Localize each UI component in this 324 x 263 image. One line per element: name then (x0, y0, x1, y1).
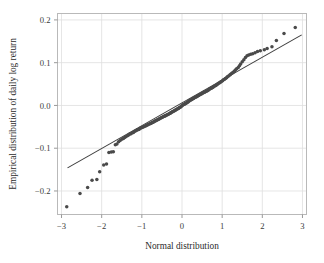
x-tick-label: 2 (260, 221, 264, 231)
y-tick-label: −0.2 (35, 186, 51, 196)
qq-plot-svg: −3−2−10123 0.20.10.0−0.1−0.2 Normal dist… (0, 0, 324, 263)
y-tick-label: 0.1 (40, 58, 51, 68)
qq-data-point (105, 162, 109, 166)
qq-data-point (65, 205, 69, 209)
x-tick-label: −1 (137, 221, 146, 231)
qq-data-point (78, 192, 82, 196)
qq-data-point (294, 26, 298, 30)
x-tick-label: −2 (97, 221, 106, 231)
qq-data-point (265, 47, 269, 51)
qq-data-point (282, 32, 286, 36)
qq-data-point (275, 39, 279, 43)
qq-data-point (259, 49, 263, 53)
qq-data-point (270, 45, 274, 49)
qq-data-point (112, 150, 116, 154)
y-tick-label: 0.0 (40, 101, 51, 111)
x-tick-label: 3 (300, 221, 304, 231)
qq-plot-figure: −3−2−10123 0.20.10.0−0.1−0.2 Normal dist… (0, 0, 324, 263)
qq-data-point (98, 170, 102, 174)
x-tick-label: 0 (180, 221, 184, 231)
x-tick-label: −3 (57, 221, 66, 231)
qq-data-point (90, 179, 94, 183)
x-tick-label: 1 (220, 221, 224, 231)
x-axis-title: Normal distribution (145, 241, 219, 251)
y-axis-title: Empirical distribution of daily log retu… (8, 38, 18, 190)
qq-data-point (95, 178, 99, 182)
y-tick-label: −0.1 (35, 143, 51, 153)
y-tick-label: 0.2 (40, 15, 51, 25)
qq-data-point (86, 186, 90, 190)
